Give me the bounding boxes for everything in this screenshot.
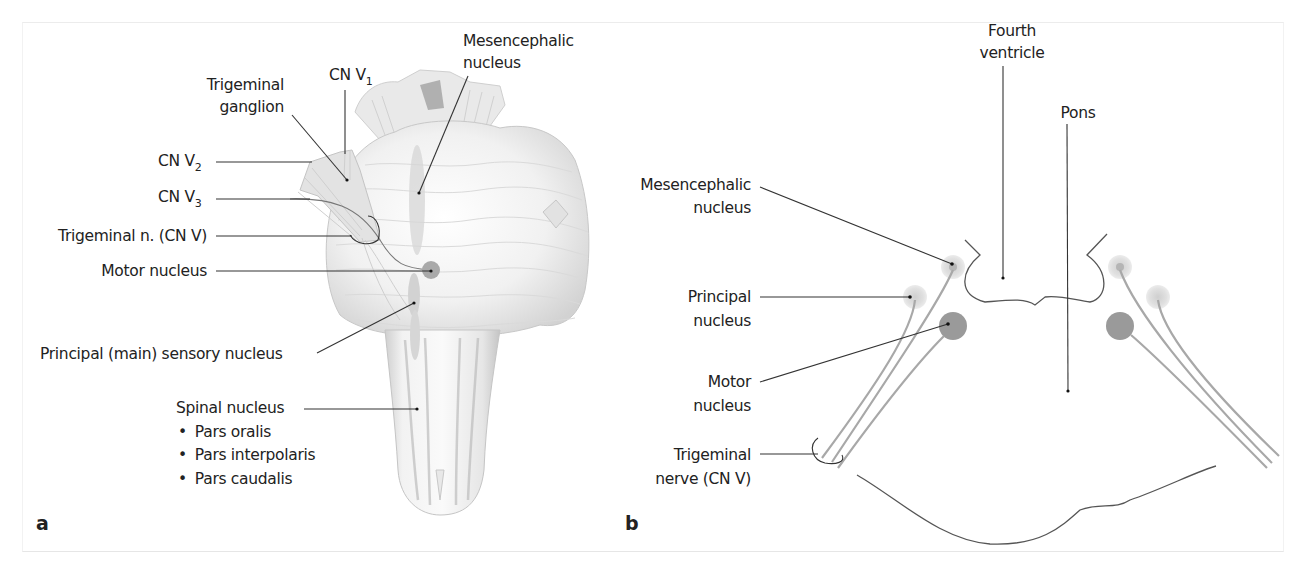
label-principal-nucleus-1: Principal (688, 288, 751, 306)
leader-motor-nucleus-b (760, 324, 948, 382)
leader-dot (1001, 276, 1004, 279)
panel-b-schematic (812, 234, 1279, 544)
spinal-part-item: •Pars oralis (178, 423, 271, 441)
label-motor-nucleus-b-1: Motor (708, 373, 752, 391)
leader-dot (412, 301, 415, 304)
label-pons: Pons (1061, 104, 1096, 122)
figure-svg: CN V1 Trigeminal ganglion CN V2 CN V3 Tr… (0, 0, 1306, 568)
spinal-part-item: •Pars interpolaris (178, 446, 315, 464)
leader-dot (950, 262, 954, 266)
leader-dot (946, 322, 950, 326)
label-spinal-nucleus: Spinal nucleus (176, 399, 284, 417)
label-fourth-ventricle-1: Fourth (988, 22, 1036, 40)
label-principal-sensory-nucleus: Principal (main) sensory nucleus (40, 345, 283, 363)
pons-lower-outline (857, 466, 1216, 544)
label-mesencephalic-a-1: Mesencephalic (463, 32, 574, 50)
fourth-ventricle-outline (965, 234, 1107, 305)
panel-a-illustration (290, 70, 589, 515)
nerve-fibers-right (1120, 270, 1279, 468)
label-trigeminal-ganglion-2: ganglion (219, 98, 284, 116)
leader-mesencephalic-b (760, 187, 952, 264)
leader-dot (1066, 389, 1069, 392)
mesencephalic-core-right (1116, 263, 1124, 271)
spinal-part-item: •Pars caudalis (178, 470, 293, 488)
label-trigeminal-n: Trigeminal n. (CN V) (57, 227, 207, 245)
label-mesencephalic-a-2: nucleus (463, 54, 521, 72)
label-motor-nucleus-b-2: nucleus (693, 397, 751, 415)
panel-b-labels: Fourth ventricle Pons Mesencephalic nucl… (625, 22, 1096, 534)
leader-dot (908, 295, 912, 299)
label-cn-v2: CN V2 (158, 152, 201, 174)
label-cn-v3: CN V3 (158, 188, 202, 210)
label-mesencephalic-b-1: Mesencephalic (640, 176, 751, 194)
label-mesencephalic-b-2: nucleus (693, 199, 751, 217)
panel-letter-b: b (625, 512, 639, 534)
medulla (385, 330, 500, 515)
figure: CN V1 Trigeminal ganglion CN V2 CN V3 Tr… (0, 0, 1306, 568)
spinal-nucleus-column (410, 310, 420, 360)
principal-nucleus-column (408, 273, 420, 317)
leader-pons (1067, 124, 1068, 391)
leader-dot (417, 191, 420, 194)
motor-nucleus-right (1106, 312, 1134, 340)
spinal-nucleus-parts: •Pars oralis •Pars interpolaris •Pars ca… (178, 423, 315, 488)
label-motor-nucleus-a: Motor nucleus (101, 262, 207, 280)
label-cn-v1: CN V1 (329, 66, 372, 88)
leader-dot (429, 269, 432, 272)
label-principal-nucleus-2: nucleus (693, 312, 751, 330)
leader-dot (415, 407, 418, 410)
nerve-fibers-left (822, 270, 953, 468)
panel-letter-a: a (36, 512, 49, 534)
mesencephalic-nucleus-column (409, 145, 425, 255)
label-fourth-ventricle-2: ventricle (980, 44, 1045, 62)
leader-dot (345, 178, 348, 181)
label-trigeminal-nerve-b-1: Trigeminal (673, 446, 751, 464)
label-trigeminal-nerve-b-2: nerve (CN V) (655, 470, 751, 488)
label-trigeminal-ganglion-1: Trigeminal (206, 76, 284, 94)
